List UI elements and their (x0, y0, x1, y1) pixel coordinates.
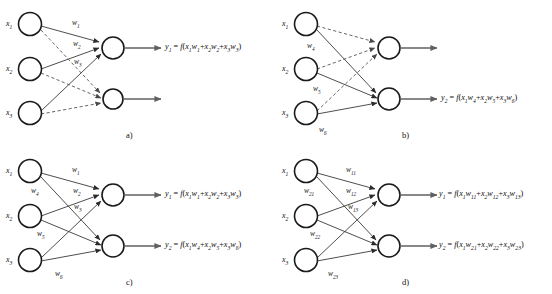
input-label-x2: x2 (6, 65, 12, 75)
output-node-y2 (378, 88, 400, 110)
output-node-y2 (103, 89, 123, 109)
input-node-x1 (295, 160, 318, 183)
input-label-x1: x1 (282, 20, 288, 30)
input-node-x3 (295, 249, 318, 272)
weight-label-w6: w6 (319, 126, 327, 136)
panel-a: x1 x2 x3 w1 w2 w3 y1 = f(x1w1+x2w2+x3w3)… (0, 0, 276, 147)
input-node-x1 (295, 13, 318, 36)
input-node-x2 (19, 58, 42, 81)
panel-caption-c: c) (126, 277, 133, 287)
weight-label-w4: w4 (31, 187, 39, 197)
input-label-x1: x1 (6, 167, 12, 177)
edge-x2-bottom (317, 220, 377, 245)
weight-label-w3: w3 (74, 203, 82, 213)
panel-b-graph (276, 0, 552, 147)
weight-label-w3: w3 (74, 58, 82, 68)
output-formula-y1: y1 = f(x1w1+x2w2+x3w3) (165, 190, 241, 200)
weight-label-w13: w13 (348, 203, 358, 213)
input-node-x3 (19, 102, 42, 125)
weight-label-w22: w22 (310, 230, 320, 240)
figure-grid: x1 x2 x3 w1 w2 w3 y1 = f(x1w1+x2w2+x3w3)… (0, 0, 552, 294)
input-node-x1 (19, 160, 42, 183)
weight-label-w5: w5 (37, 230, 45, 240)
input-label-x2: x2 (6, 212, 12, 222)
output-node-y1 (378, 37, 400, 59)
weight-label-w2: w2 (73, 40, 81, 50)
weight-label-w1: w1 (72, 19, 80, 29)
edge-x2-top (317, 195, 375, 216)
input-label-x2: x2 (282, 212, 288, 222)
output-formula-y2: y2 = f(x1w4+x2w5+x3w6) (165, 241, 241, 251)
edge-x2-bottom (41, 220, 101, 245)
edge-x3-bottom (317, 103, 377, 114)
weight-label-w23: w23 (328, 270, 338, 280)
input-node-x2 (295, 58, 318, 81)
weight-label-w1: w1 (72, 166, 80, 176)
edge-x2-top (41, 48, 99, 69)
output-node-y1 (102, 37, 124, 59)
edge-x3-bottom (41, 250, 101, 261)
edge-x2-top (41, 195, 99, 216)
edge-x2-bottom (41, 73, 101, 98)
input-node-x3 (295, 102, 318, 125)
panel-c: x1 x2 x3 w1 w2 w3 w4 w5 w6 y1 = f(x1w1+x… (0, 147, 276, 294)
input-label-x3: x3 (282, 109, 288, 119)
input-node-x1 (19, 13, 42, 36)
weight-label-w5: w5 (313, 85, 321, 95)
input-node-x2 (295, 205, 318, 228)
input-label-x3: x3 (282, 256, 288, 266)
panel-b: x1 x2 x3 w4 w5 w6 y2 = f(x1w4+x2w5+x3w6)… (276, 0, 552, 147)
panel-d-graph (276, 147, 552, 294)
output-formula-y2: y2 = f(x1w21+x2w22+x3w23) (439, 241, 524, 251)
weight-label-w6: w6 (55, 270, 63, 280)
edge-x2-bottom (317, 73, 377, 98)
output-node-y1 (102, 184, 124, 206)
panel-d: x1 x2 x3 w11 w12 w13 w21 w22 w23 y1 = f(… (276, 147, 552, 294)
edge-x3-top (41, 54, 101, 111)
input-label-x3: x3 (6, 109, 12, 119)
weight-label-w12: w12 (346, 187, 356, 197)
input-node-x2 (19, 205, 42, 228)
panel-caption-d: d) (402, 277, 409, 287)
output-formula-y2: y2 = f(x1w4+x2w5+x3w6) (441, 94, 517, 104)
output-node-y2 (102, 235, 124, 257)
edge-x3-bottom (317, 250, 377, 261)
input-label-x3: x3 (6, 256, 12, 266)
panel-caption-b: b) (402, 130, 409, 140)
weight-label-w4: w4 (307, 42, 315, 52)
input-label-x1: x1 (6, 20, 12, 30)
edge-x2-top (317, 48, 375, 69)
input-label-x1: x1 (282, 167, 288, 177)
input-label-x2: x2 (282, 65, 288, 75)
panel-a-graph (0, 0, 276, 147)
output-node-y1 (378, 184, 400, 206)
edge-x3-bottom (41, 103, 101, 114)
output-formula-y1: y1 = f(x1w1+x2w2+x3w3) (165, 43, 241, 53)
weight-label-w21: w21 (304, 187, 314, 197)
panel-caption-a: a) (126, 130, 133, 140)
weight-label-w11: w11 (346, 166, 356, 176)
input-node-x3 (19, 249, 42, 272)
panel-c-graph (0, 147, 276, 294)
output-formula-y1: y1 = f(x1w11+x2w12+x3w13) (439, 190, 523, 200)
weight-label-w2: w2 (73, 187, 81, 197)
output-node-y2 (378, 235, 400, 257)
